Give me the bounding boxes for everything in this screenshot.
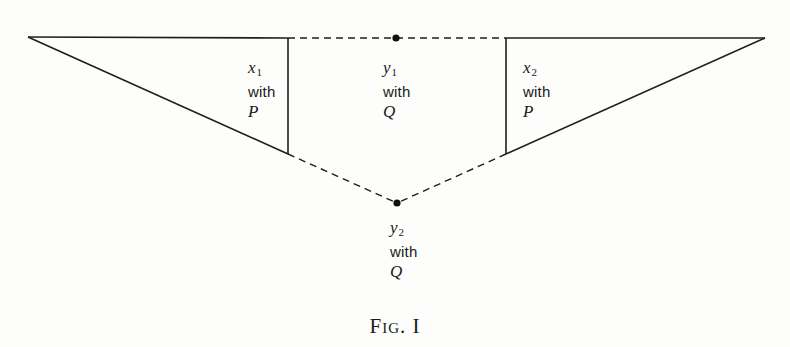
label-y2: y2 with Q (390, 218, 417, 282)
label-x2-word: with (523, 82, 550, 102)
label-y1-word: with (383, 82, 410, 102)
figure-caption: Fig. I (0, 314, 790, 339)
label-y1-param: Q (383, 102, 410, 122)
figure-canvas: x1 with P y1 with Q x2 with P y2 with Q … (0, 0, 790, 347)
label-y1-variable: y1 (383, 58, 410, 82)
label-y1: y1 with Q (383, 58, 410, 122)
label-y2-word: with (390, 242, 417, 262)
label-x1-variable: x1 (248, 58, 275, 82)
label-y2-variable: y2 (390, 218, 417, 242)
right-slant-dashed (397, 154, 506, 203)
label-y2-param: Q (390, 262, 417, 282)
label-x1: x1 with P (248, 58, 275, 122)
label-x2: x2 with P (523, 58, 550, 122)
label-x1-word: with (248, 82, 275, 102)
left-slant-dashed (288, 154, 397, 203)
top-point-dot (392, 34, 399, 41)
bottom-point-dot (393, 199, 400, 206)
label-x1-param: P (248, 102, 275, 122)
top-edge-left-solid (28, 37, 288, 38)
label-x2-param: P (523, 102, 550, 122)
triangle-diagram (0, 0, 790, 347)
label-x2-variable: x2 (523, 58, 550, 82)
